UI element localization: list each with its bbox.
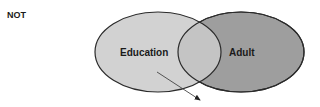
venn-diagram: Education Adult <box>0 0 320 107</box>
education-label: Education <box>120 47 168 58</box>
adult-label: Adult <box>229 47 255 58</box>
